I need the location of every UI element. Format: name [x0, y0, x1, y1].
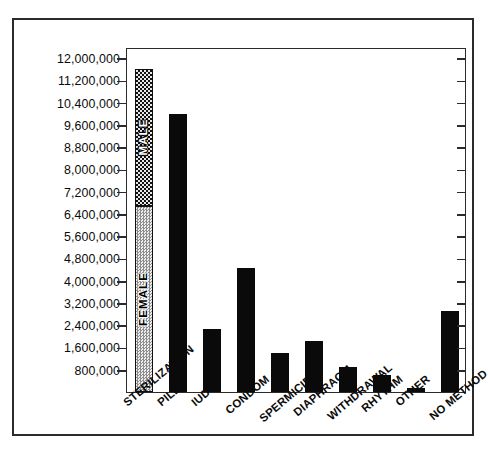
- y-axis-tick-mark-right: [457, 370, 466, 372]
- bar-no-method: [441, 311, 459, 392]
- y-axis-tick-mark: [117, 147, 126, 149]
- bar-spermicide: [271, 353, 289, 392]
- y-axis-tick-mark: [117, 81, 126, 83]
- bar-segment-label-male: MALE: [138, 119, 150, 156]
- y-axis-tick-label: 6,400,000: [64, 208, 120, 222]
- y-axis-tick-label: 9,600,000: [64, 119, 120, 133]
- bar-iud: [203, 329, 221, 392]
- y-axis-tick-mark-right: [457, 259, 466, 261]
- y-axis-tick-label: 2,400,000: [64, 319, 120, 333]
- y-axis-tick-mark: [117, 259, 126, 261]
- y-axis-tick-mark: [117, 236, 126, 238]
- y-axis-tick-label: 10,400,000: [57, 97, 120, 111]
- bar-condom: [237, 268, 255, 392]
- y-axis-tick-mark: [117, 125, 126, 127]
- y-axis-tick-mark-right: [457, 303, 466, 305]
- y-axis-tick-mark-right: [457, 236, 466, 238]
- y-axis-tick-mark-right: [457, 81, 466, 83]
- y-axis-tick-mark: [117, 370, 126, 372]
- y-axis-tick-mark-right: [457, 214, 466, 216]
- y-axis-tick-label: 4,800,000: [64, 252, 120, 266]
- y-axis-tick-label: 7,200,000: [64, 186, 120, 200]
- y-axis-tick-mark-right: [457, 125, 466, 127]
- chart-outer-frame: 800,0001,600,0002,400,0003,200,0004,000,…: [12, 18, 474, 436]
- bar-segment-female: FEMALE: [135, 206, 153, 392]
- y-axis-tick-mark: [117, 170, 126, 172]
- y-axis-tick-mark: [117, 325, 126, 327]
- y-axis-tick-mark: [117, 192, 126, 194]
- y-axis-tick-label: 5,600,000: [64, 230, 120, 244]
- y-axis-tick-label: 8,000,000: [64, 163, 120, 177]
- bar-segment-male: MALE: [135, 69, 153, 205]
- y-axis-tick-label: 3,200,000: [64, 297, 120, 311]
- plot-area: FEMALEMALE: [126, 48, 466, 393]
- y-axis: 800,0001,600,0002,400,0003,200,0004,000,…: [14, 20, 126, 438]
- x-axis-labels: STERILIZATIONPILLIUDCONDOMSPERMICIDEDIAP…: [126, 393, 476, 458]
- y-axis-tick-mark: [117, 103, 126, 105]
- y-axis-tick-mark-right: [457, 147, 466, 149]
- y-axis-tick-label: 12,000,000: [57, 52, 120, 66]
- y-axis-tick-label: 8,800,000: [64, 141, 120, 155]
- y-axis-tick-label: 800,000: [75, 364, 121, 378]
- y-axis-tick-label: 11,200,000: [58, 74, 120, 88]
- bar-sterilization-stacked: FEMALEMALE: [135, 69, 153, 392]
- y-axis-tick-mark-right: [457, 58, 466, 60]
- y-axis-tick-mark: [117, 348, 126, 350]
- y-axis-tick-mark: [117, 58, 126, 60]
- y-axis-tick-mark: [117, 214, 126, 216]
- y-axis-tick-mark-right: [457, 192, 466, 194]
- y-axis-tick-mark-right: [457, 348, 466, 350]
- plot-inner: FEMALEMALE: [127, 49, 465, 392]
- y-axis-tick-mark-right: [457, 325, 466, 327]
- y-axis-tick-mark-right: [457, 103, 466, 105]
- y-axis-tick-mark-right: [457, 170, 466, 172]
- y-axis-tick-label: 4,000,000: [64, 275, 120, 289]
- y-axis-tick-mark-right: [457, 281, 466, 283]
- bar-segment-label-female: FEMALE: [138, 272, 150, 326]
- y-axis-tick-mark: [117, 303, 126, 305]
- y-axis-tick-mark: [117, 281, 126, 283]
- y-axis-tick-label: 1,600,000: [64, 341, 120, 355]
